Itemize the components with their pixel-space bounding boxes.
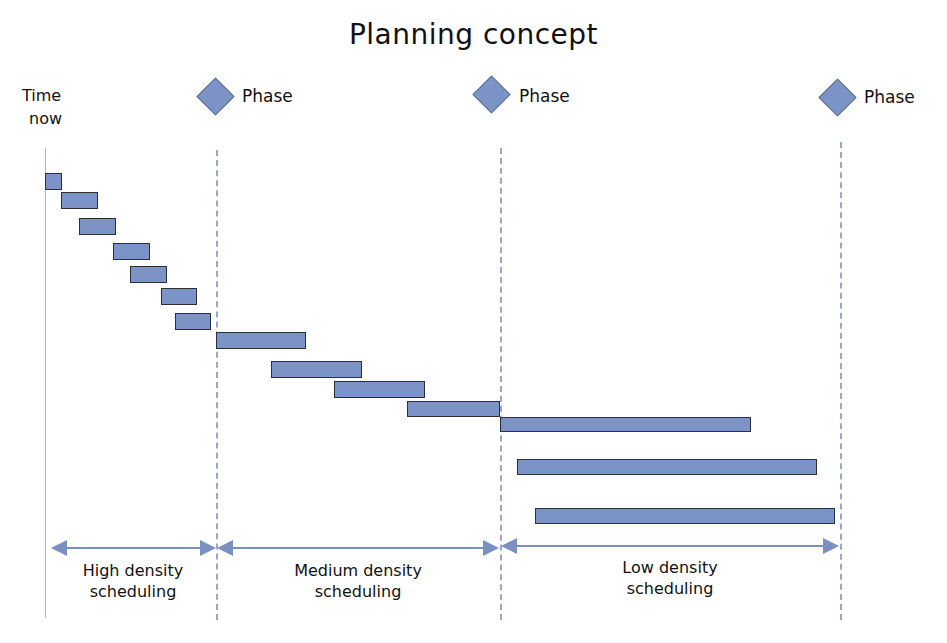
low-density-label: Low density scheduling xyxy=(500,557,840,599)
medium-density-line1: Medium density xyxy=(216,560,500,581)
scope-arrows xyxy=(0,0,947,643)
low-density-line1: Low density xyxy=(500,557,840,578)
high-density-line1: High density xyxy=(50,560,216,581)
low-density-line2: scheduling xyxy=(500,578,840,599)
medium-density-label: Medium density scheduling xyxy=(216,560,500,602)
medium-density-line2: scheduling xyxy=(216,581,500,602)
high-density-label: High density scheduling xyxy=(50,560,216,602)
high-density-line2: scheduling xyxy=(50,581,216,602)
